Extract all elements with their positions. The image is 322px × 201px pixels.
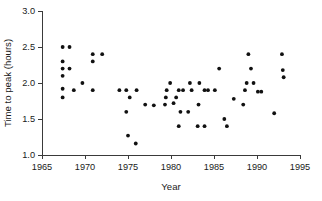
data-point [186, 110, 190, 114]
data-point [188, 81, 192, 85]
data-point [91, 60, 95, 64]
data-point [126, 134, 130, 138]
data-point [124, 110, 128, 114]
x-axis-title: Year [161, 181, 181, 192]
data-point [61, 60, 65, 64]
data-point [252, 81, 256, 85]
data-point [222, 117, 226, 121]
data-point [143, 103, 147, 107]
chart-canvas: 1.01.52.02.53.0 196519701975198019851990… [0, 0, 322, 201]
data-point [165, 88, 169, 92]
scatter-plot-figure: 1.01.52.02.53.0 196519701975198019851990… [0, 0, 322, 201]
data-point [91, 52, 95, 56]
data-point [135, 88, 139, 92]
y-axis-title: Time to peak (hours) [2, 39, 13, 127]
data-point [68, 45, 72, 49]
data-point [163, 103, 167, 107]
data-point [181, 88, 185, 92]
data-point [256, 90, 260, 94]
data-point [128, 96, 132, 100]
y-tick-label: 2.5 [22, 42, 35, 52]
x-tick-label: 1995 [290, 162, 310, 172]
data-point [124, 88, 128, 92]
data-point [196, 124, 200, 128]
data-point [61, 96, 65, 100]
data-point [249, 67, 253, 71]
x-tick-label: 1970 [75, 162, 95, 172]
data-point [281, 68, 285, 72]
y-tick-label: 2.0 [22, 78, 35, 88]
data-point [61, 87, 65, 91]
data-point [259, 90, 263, 94]
data-point [206, 88, 210, 92]
x-tick-label: 1990 [247, 162, 267, 172]
data-point [217, 67, 221, 71]
data-point [232, 97, 236, 101]
data-point [61, 67, 65, 71]
x-tick-label: 1975 [118, 162, 138, 172]
data-point [247, 52, 251, 56]
data-point [172, 101, 176, 105]
data-point [177, 124, 181, 128]
data-point [243, 88, 247, 92]
data-point [282, 75, 286, 79]
data-point [164, 96, 168, 100]
data-point [134, 142, 138, 146]
data-point [213, 88, 217, 92]
data-point [81, 81, 85, 85]
data-point [72, 88, 76, 92]
data-point [118, 88, 122, 92]
data-point [179, 110, 183, 114]
data-point [225, 124, 229, 128]
data-point [272, 111, 276, 115]
data-point [203, 124, 207, 128]
data-point [280, 52, 284, 56]
data-point [100, 52, 104, 56]
data-point [168, 81, 172, 85]
x-tick-label: 1980 [161, 162, 181, 172]
data-point [241, 103, 245, 107]
x-tick-label: 1985 [204, 162, 224, 172]
data-point [197, 81, 201, 85]
data-point [245, 81, 249, 85]
y-tick-label: 1.5 [22, 114, 35, 124]
data-point [177, 88, 181, 92]
data-point [197, 103, 201, 107]
data-point [91, 88, 95, 92]
data-point [152, 103, 156, 107]
data-point [61, 74, 65, 78]
x-tick-label: 1965 [32, 162, 52, 172]
data-point [174, 96, 178, 100]
y-tick-label: 1.0 [22, 150, 35, 160]
data-point [190, 88, 194, 92]
data-point [61, 45, 65, 49]
data-point [203, 88, 207, 92]
data-point [68, 67, 72, 71]
y-tick-label: 3.0 [22, 6, 35, 16]
